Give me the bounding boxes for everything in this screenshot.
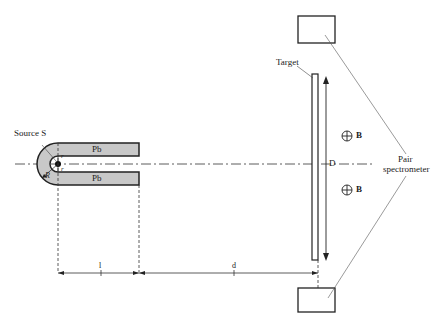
b-field-bottom-icon bbox=[342, 185, 352, 195]
source-label: Source S bbox=[14, 128, 46, 138]
r-top-label: r bbox=[61, 152, 64, 160]
pb-bottom-label: Pb bbox=[92, 173, 102, 183]
target-label: Target bbox=[276, 57, 299, 67]
pb-top-label: Pb bbox=[92, 144, 102, 154]
D-label: D bbox=[329, 158, 336, 168]
pair-label: Pair bbox=[398, 154, 413, 164]
target bbox=[312, 74, 318, 260]
detector-bottom bbox=[298, 288, 335, 312]
B-bottom-label: B bbox=[356, 184, 362, 194]
diagram-canvas bbox=[0, 0, 445, 331]
b-field-top-icon bbox=[342, 131, 352, 141]
detector-top bbox=[298, 16, 335, 43]
dim-l-label: l bbox=[99, 261, 101, 270]
B-top-label: B bbox=[356, 130, 362, 140]
spectrometer-label: spectrometer bbox=[383, 164, 429, 174]
dim-d-label: d bbox=[232, 261, 236, 270]
R-label: R bbox=[45, 171, 50, 180]
r-bottom-label: r bbox=[61, 165, 64, 173]
